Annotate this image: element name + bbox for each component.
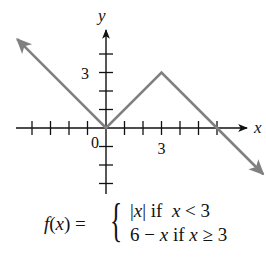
curve-line — [17, 39, 263, 174]
axis-ticks — [32, 54, 217, 184]
formula-lhs: f(x) = — [44, 213, 86, 235]
x-tick-label: 3 — [158, 140, 166, 157]
origin-label: 0 — [91, 134, 99, 151]
formula-case-2: 6 − x if x ≥ 3 — [130, 224, 227, 246]
axes — [16, 30, 247, 194]
formula-case-1: |x| if x < 3 — [130, 200, 210, 222]
x-axis-label: x — [253, 118, 262, 137]
y-axis-label: y — [96, 6, 106, 25]
y-tick-label: 3 — [81, 65, 89, 82]
piecewise-formula: f(x) = { |x| if x < 3 6 − x if x ≥ 3 — [44, 196, 266, 258]
function-curve — [17, 39, 263, 174]
graph-plot: xy033 — [0, 0, 266, 196]
formula-brace: { — [110, 198, 122, 244]
